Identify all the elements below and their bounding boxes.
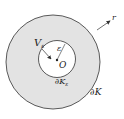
normal-arrow [97,21,110,30]
normal-label: r [112,13,117,22]
outer-boundary-label: ∂K [90,87,103,97]
annulus-diagram: Vε ε O ∂Kε ∂K r [0,0,124,119]
radius-label: ε [57,44,61,53]
center-label: O [59,60,67,70]
